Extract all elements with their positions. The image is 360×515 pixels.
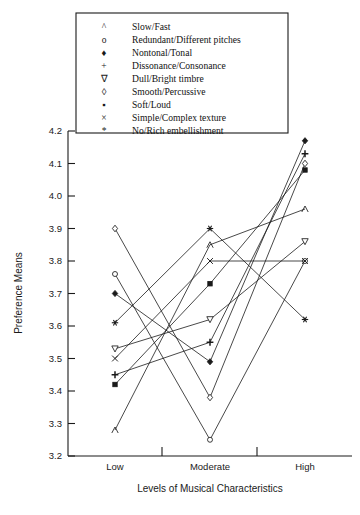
legend-marker-icon: ◊: [102, 87, 107, 97]
y-axis-title: Preference Means: [13, 252, 24, 334]
y-tick-label: 3.4: [49, 385, 62, 396]
chart-legend: ^Slow/FastoRedundant/Different pitches♦N…: [76, 13, 288, 136]
y-tick-label: 3.5: [49, 353, 62, 364]
legend-item-label: Redundant/Different pitches: [132, 34, 241, 45]
x-category-label-moderate: Moderate: [190, 461, 230, 472]
legend-marker-icon: o: [102, 35, 107, 45]
y-tick-label: 4.0: [49, 190, 62, 201]
legend-item-label: Dull/Bright timbre: [132, 73, 204, 84]
series-point-low: [113, 272, 118, 277]
legend-item-label: Dissonance/Consonance: [132, 60, 226, 71]
series-point-high: [303, 168, 307, 172]
legend-item-label: Simple/Complex texture: [132, 112, 226, 123]
y-tick-label: 3.2: [49, 450, 62, 461]
series-point-moderate: [208, 437, 213, 442]
series-point-low: [113, 382, 117, 386]
legend-marker-icon: ▪: [102, 100, 105, 110]
chart-canvas: 3.23.33.43.53.63.73.83.94.04.14.2 LowMod…: [0, 0, 360, 515]
legend-item-label: Smooth/Percussive: [132, 86, 206, 97]
legend-item-label: No/Rich embellishment: [132, 125, 224, 136]
y-tick-label: 3.9: [49, 223, 62, 234]
legend-marker-icon: ×: [101, 113, 106, 123]
y-tick-label: 4.2: [49, 125, 62, 136]
preference-means-line-chart: 3.23.33.43.53.63.73.83.94.04.14.2 LowMod…: [0, 0, 360, 515]
legend-marker-icon: ♦: [102, 48, 107, 58]
y-tick-label: 3.6: [49, 320, 62, 331]
legend-item-label: Soft/Loud: [132, 99, 171, 110]
legend-item-label: Slow/Fast: [132, 21, 171, 32]
x-category-label-low: Low: [106, 461, 124, 472]
series-point-moderate: [208, 282, 212, 286]
x-category-label-high: High: [295, 461, 315, 472]
y-tick-label: 3.3: [49, 418, 62, 429]
x-axis-title: Levels of Musical Characteristics: [137, 483, 283, 494]
legend-marker-icon: ∇: [100, 74, 108, 84]
y-tick-label: 4.1: [49, 158, 62, 169]
y-tick-label: 3.8: [49, 255, 62, 266]
legend-marker-icon: ^: [102, 22, 107, 32]
y-tick-label: 3.7: [49, 288, 62, 299]
legend-marker-icon: *: [102, 126, 107, 136]
legend-marker-icon: +: [101, 61, 106, 71]
legend-item-label: Nontonal/Tonal: [132, 47, 192, 58]
